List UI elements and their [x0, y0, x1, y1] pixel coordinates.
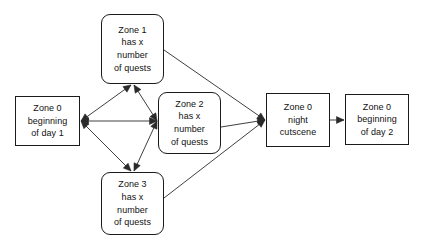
arrowhead-zone2-night-end: [257, 118, 265, 125]
edge-day1-zone3: [81, 121, 131, 171]
node-label: Zone 1 has x number of quests: [112, 24, 153, 74]
edge-zone2-night: [221, 120, 265, 127]
node-label: Zone 0 night cutscene: [278, 101, 318, 139]
node-zone0-day1[interactable]: Zone 0 beginning of day 1: [15, 96, 80, 146]
node-label: Zone 3 has x number of quests: [112, 178, 153, 228]
node-label: Zone 2 has x number of quests: [169, 98, 210, 148]
arrowhead-day1-zone2-end: [150, 118, 158, 125]
arrowhead-zone3-night-end: [257, 120, 265, 127]
arrowhead-zone1-zone2-end: [150, 113, 157, 121]
arrowhead-day1-zone1-end: [123, 85, 131, 92]
arrowhead-zone1-night-end: [257, 113, 265, 120]
edge-zone1-zone2: [134, 85, 157, 121]
arrowhead-night-day2-end: [337, 117, 345, 124]
edge-line: [81, 85, 131, 121]
edge-line: [134, 121, 157, 171]
node-zone1[interactable]: Zone 1 has x number of quests: [101, 14, 164, 84]
arrowhead-zone2-zone3-end: [134, 163, 140, 171]
node-zone3[interactable]: Zone 3 has x number of quests: [101, 172, 164, 235]
edge-zone2-zone3: [134, 121, 157, 171]
node-zone0-day2[interactable]: Zone 0 beginning of day 2: [345, 94, 409, 145]
node-label: Zone 0 beginning of day 2: [355, 101, 399, 139]
edge-day1-zone1: [81, 85, 131, 121]
diagram-canvas: Zone 0 beginning of day 1 Zone 1 has x n…: [0, 0, 421, 243]
arrowhead-day1-zone2-start: [81, 118, 89, 125]
node-zone2[interactable]: Zone 2 has x number of quests: [158, 92, 221, 154]
edge-line: [134, 85, 157, 121]
edge-line: [81, 121, 131, 171]
arrowhead-zone2-zone3-start: [151, 121, 157, 129]
node-zone0-night-cutscene[interactable]: Zone 0 night cutscene: [266, 93, 330, 147]
arrowhead-zone1-zone2-start: [134, 85, 141, 93]
arrowhead-day1-zone3-end: [123, 163, 131, 171]
arrowhead-day1-zone1-start: [81, 114, 89, 121]
node-label: Zone 0 beginning of day 1: [26, 102, 70, 140]
edge-line: [221, 120, 265, 127]
arrowhead-day1-zone3-start: [81, 121, 89, 129]
